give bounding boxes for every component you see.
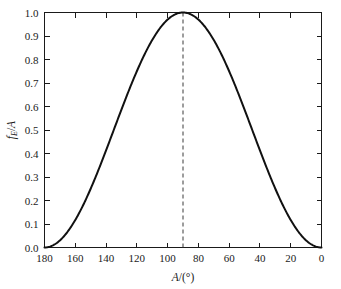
y-tick-label: 0.8 <box>25 54 39 66</box>
line-chart: 180160140120100806040200 0.00.10.20.30.4… <box>0 0 341 289</box>
y-tick-label: 0.7 <box>25 77 39 89</box>
y-tick-label: 1.0 <box>25 7 39 19</box>
y-tick-label: 0.0 <box>25 242 39 254</box>
y-tick-label: 0.2 <box>25 195 39 207</box>
y-tick-label: 0.6 <box>25 101 39 113</box>
y-tick-label: 0.1 <box>25 218 39 230</box>
x-tick-label: 80 <box>193 252 205 264</box>
x-tick-label: 40 <box>254 252 266 264</box>
y-axis-label: fE/A <box>5 120 19 139</box>
x-tick-label: 100 <box>159 252 176 264</box>
x-tick-label: 180 <box>36 252 53 264</box>
x-tick-label: 140 <box>98 252 115 264</box>
chart-figure: 180160140120100806040200 0.00.10.20.30.4… <box>0 0 341 289</box>
x-tick-label: 160 <box>67 252 84 264</box>
x-tick-label: 60 <box>224 252 236 264</box>
x-tick-label: 120 <box>129 252 146 264</box>
y-tick-label: 0.4 <box>25 148 39 160</box>
y-tick-label: 0.9 <box>25 30 39 42</box>
y-tick-label: 0.3 <box>25 171 39 183</box>
x-tick-label: 0 <box>319 252 325 264</box>
y-tick-label: 0.5 <box>25 124 39 136</box>
x-tick-label: 20 <box>285 252 297 264</box>
x-axis-label: A/(°) <box>171 271 195 284</box>
